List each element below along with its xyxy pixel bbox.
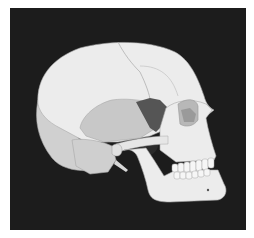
styloid-process: [114, 160, 128, 172]
skull-illustration: [0, 0, 254, 238]
mental-foramen: [207, 189, 209, 191]
mandibular-condyle: [112, 144, 122, 156]
